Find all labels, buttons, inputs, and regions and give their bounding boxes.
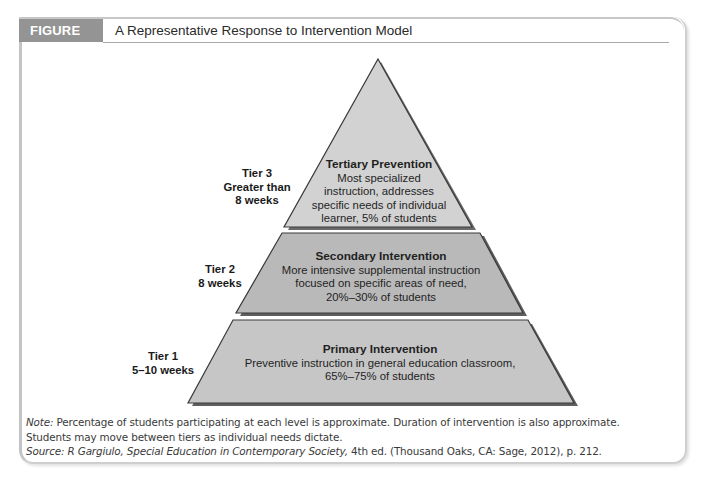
tier3-duration-line2: 8 weeks [214,194,300,208]
tier2-desc-line3: 20%–30% of students [272,291,490,305]
tier3-title: Tertiary Prevention [298,158,460,172]
tier2-desc-line1: More intensive supplemental instruction [272,264,490,278]
tier2-label: Tier 2 8 weeks [188,263,252,290]
tier2-desc-line2: focused on specific areas of need, [272,277,490,291]
source-prefix: Source: R Gargiulo, [26,445,127,457]
tier3-text: Tertiary Prevention Most specialized ins… [298,158,460,226]
figure-note: Note: Percentage of students participati… [26,415,620,444]
tier3-label: Tier 3 Greater than 8 weeks [214,167,300,208]
tier1-text: Primary Intervention Preventive instruct… [240,343,520,384]
tier2-text: Secondary Intervention More intensive su… [272,250,490,304]
tier1-duration-line1: 5–10 weeks [130,364,196,378]
tier3-desc-line3: specific needs of individual [298,199,460,213]
note-prefix: Note: [26,416,53,428]
tier3-desc-line2: instruction, addresses [298,185,460,199]
tier3-duration-line1: Greater than [214,181,300,195]
figure-source: Source: R Gargiulo, Special Education in… [26,445,602,457]
tier1-label: Tier 1 5–10 weeks [130,350,196,377]
tier3-desc-line1: Most specialized [298,172,460,186]
tier1-desc-line2: 65%–75% of students [240,370,520,384]
tier2-name: Tier 2 [188,263,252,277]
tier3-name: Tier 3 [214,167,300,181]
tier2-duration-line1: 8 weeks [188,277,252,291]
tier1-title: Primary Intervention [240,343,520,357]
note-line1: Percentage of students participating at … [53,416,619,428]
tier2-title: Secondary Intervention [272,250,490,264]
source-suffix: 4th ed. (Thousand Oaks, CA: Sage, 2012),… [348,445,602,457]
rti-pyramid-diagram [0,0,705,478]
note-line2: Students may move between tiers as indiv… [26,431,342,443]
tier3-desc-line4: learner, 5% of students [298,212,460,226]
tier1-desc-line1: Preventive instruction in general educat… [240,357,520,371]
source-book-title: Special Education in Contemporary Societ… [127,445,348,457]
tier1-name: Tier 1 [130,350,196,364]
